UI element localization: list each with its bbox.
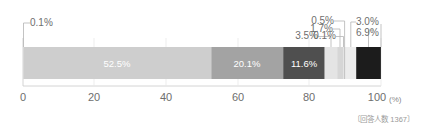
callout-label-0-1-left: 0.1% [30,17,53,28]
x-tick-label-60: 60 [232,91,244,103]
x-axis-unit-label: (%) [389,95,402,104]
bar-segment-5[interactable] [337,47,343,79]
x-tick-label-20: 20 [88,91,100,103]
x-tick-label-40: 40 [160,91,172,103]
x-tick-label-100: 100 [368,91,386,103]
bar-segment-7[interactable] [344,47,346,79]
segment-value-label-52-5: 52.5% [104,58,131,69]
x-tick-label-80: 80 [303,91,315,103]
callout-label-3-0: 3.0% [356,16,379,27]
callout-label-6-9: 6.9% [356,27,379,38]
bar-segment-4[interactable] [325,47,338,79]
segment-value-label-20-1: 20.1% [234,58,261,69]
callout-labels-group: 0.1% 3.5% 1.7% 0.1% 0.5% 3.0% 6.9% [30,15,379,42]
segment-value-label-11-6: 11.6% [291,58,318,69]
x-tick-label-0: 0 [20,91,26,103]
callout-label-0-1-inner: 0.1% [313,30,336,41]
chart-canvas: 52.5% 20.1% 11.6% 0.1% 3.5% [0,0,430,135]
callout-label-0-5: 0.5% [311,15,334,26]
bar-segments-group [23,47,381,79]
bar-segment-9[interactable] [356,47,381,79]
respondents-footnote: 〔回答人数 1367〕 [353,114,414,124]
bar-segment-8[interactable] [346,47,357,79]
stacked-bar-chart: 52.5% 20.1% 11.6% 0.1% 3.5% [0,0,430,135]
x-axis-tick-labels: 0 20 40 60 80 100 (%) [20,91,402,104]
